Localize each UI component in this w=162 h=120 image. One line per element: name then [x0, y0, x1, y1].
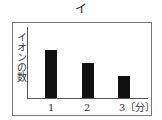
x-tick-2: 2	[84, 102, 90, 114]
x-axis	[27, 98, 148, 99]
bar-2	[82, 63, 94, 98]
y-axis-label: イオンの数	[14, 32, 26, 82]
bar-3	[118, 76, 130, 98]
chart-title: イ	[0, 2, 162, 16]
bar-1	[45, 50, 57, 98]
y-axis	[27, 27, 28, 99]
x-tick-1: 1	[48, 102, 54, 114]
x-tick-3: 3〔分〕	[119, 102, 155, 114]
